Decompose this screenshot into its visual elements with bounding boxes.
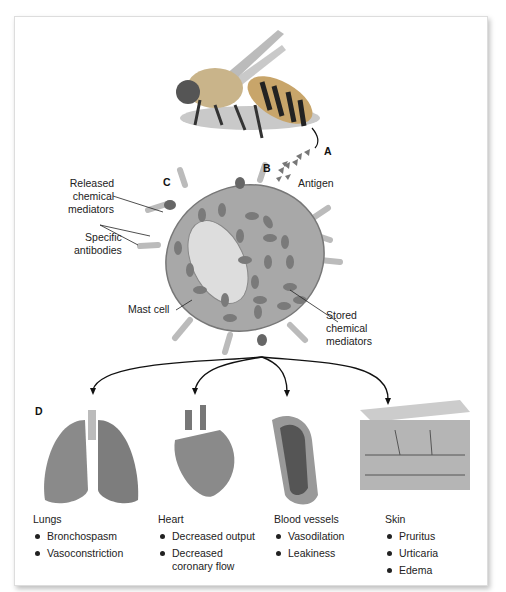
- organ-heart: Heart Decreased outputDecreased coronary…: [158, 513, 257, 577]
- heart-icon: [174, 405, 234, 497]
- organ-skin: Skin PruritusUrticariaEdema: [385, 513, 438, 581]
- blood-vessel-icon: [272, 416, 318, 504]
- label-a: A: [324, 145, 332, 157]
- skin-icon: [360, 400, 470, 490]
- specific-antibodies-label: Specificantibodies: [74, 231, 122, 257]
- bee-icon: [176, 30, 320, 148]
- effect-arrows: [93, 357, 388, 400]
- antigen-label: Antigen: [298, 177, 334, 190]
- lungs-icon: [44, 410, 138, 503]
- stored-mediators-label: Storedchemicalmediators: [326, 309, 372, 348]
- label-d: D: [35, 405, 43, 417]
- label-c: C: [163, 176, 171, 188]
- label-b: B: [263, 162, 271, 174]
- mast-cell-label: Mast cell: [128, 303, 169, 316]
- organ-blood-vessels: Blood vessels VasodilationLeakiness: [274, 513, 344, 564]
- mast-cell-icon: [140, 163, 345, 353]
- diagram-art: [0, 0, 506, 592]
- organ-lungs: Lungs BronchospasmVasoconstriction: [33, 513, 123, 564]
- released-mediators-label: Releasedchemicalmediators: [68, 177, 114, 216]
